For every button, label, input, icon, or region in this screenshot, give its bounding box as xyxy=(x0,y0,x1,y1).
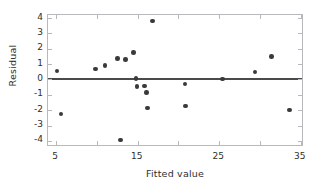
y-tick-mark xyxy=(298,126,302,127)
data-point xyxy=(131,50,136,55)
x-tick-mark xyxy=(301,141,302,145)
y-tick-mark xyxy=(48,141,52,142)
x-tick-mark xyxy=(260,15,261,19)
x-tick-mark xyxy=(56,141,57,145)
x-tick-mark xyxy=(97,15,98,19)
y-tick-mark xyxy=(48,18,52,19)
x-tick-mark xyxy=(178,15,179,19)
x-tick-label: 35 xyxy=(287,152,313,161)
y-tick-mark xyxy=(48,64,52,65)
data-point xyxy=(142,84,147,89)
y-tick-mark xyxy=(298,95,302,96)
x-tick-mark xyxy=(219,15,220,19)
x-tick-label: 25 xyxy=(205,152,231,161)
y-tick-mark xyxy=(48,126,52,127)
data-point xyxy=(115,56,120,61)
x-tick-mark xyxy=(219,141,220,145)
x-tick-mark xyxy=(178,141,179,145)
data-point xyxy=(269,54,274,59)
y-tick-mark xyxy=(48,33,52,34)
y-tick-mark xyxy=(298,64,302,65)
y-tick-mark xyxy=(298,49,302,50)
data-point xyxy=(145,106,150,111)
data-point xyxy=(118,138,123,143)
y-tick-mark xyxy=(48,110,52,111)
data-point xyxy=(150,19,155,24)
data-point xyxy=(103,63,108,68)
x-tick-mark xyxy=(260,141,261,145)
x-tick-mark xyxy=(301,15,302,19)
y-tick-mark xyxy=(298,33,302,34)
data-point xyxy=(123,57,128,62)
y-tick-mark xyxy=(298,110,302,111)
zero-reference-line xyxy=(48,78,302,80)
residual-scatter-chart: Residual Fitted value 43210-1-2-3-4 5152… xyxy=(0,0,320,188)
data-point xyxy=(183,82,188,87)
y-tick-mark xyxy=(48,79,52,80)
x-tick-mark xyxy=(138,15,139,19)
data-point xyxy=(93,67,98,72)
y-tick-mark xyxy=(48,95,52,96)
y-tick-mark xyxy=(298,79,302,80)
y-tick-mark xyxy=(48,49,52,50)
data-point xyxy=(183,104,188,109)
data-point xyxy=(220,77,225,82)
x-tick-label: 5 xyxy=(42,152,68,161)
plot-area xyxy=(47,14,303,146)
data-point xyxy=(135,84,140,89)
x-tick-mark xyxy=(138,141,139,145)
data-point xyxy=(287,108,292,113)
data-point xyxy=(59,112,64,117)
x-tick-mark xyxy=(56,15,57,19)
x-tick-label: 15 xyxy=(124,152,150,161)
x-tick-mark xyxy=(97,141,98,145)
data-point xyxy=(144,90,149,95)
data-point xyxy=(55,69,60,74)
data-point xyxy=(253,70,258,75)
